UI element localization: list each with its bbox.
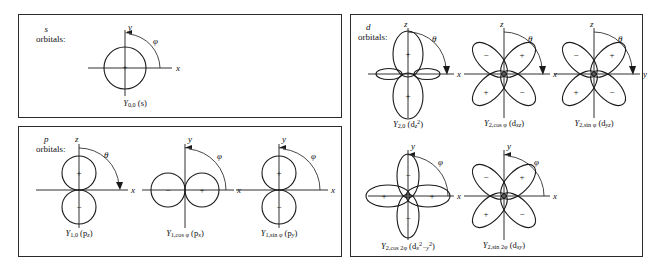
orbital-d-z2: + + x z θ Y2,0 (dz2)	[366, 18, 470, 118]
orbital-d-x2-y2: + + − − x y φ Y2,cos 2φ (dx2−y2)	[366, 140, 470, 240]
phi-angle-label: φ	[153, 36, 158, 46]
lobe-lower-right	[495, 65, 542, 112]
orbital-s-0-0: + x y φ Y0,0 (s)	[80, 20, 190, 96]
orbital-label-d-x2-y2: Y2,cos 2φ (dx2−y2)	[381, 240, 435, 251]
orbital-label-d-xz: Y2,cos φ (dxz)	[484, 118, 524, 128]
s-section-letter: s	[36, 24, 66, 34]
sign-upper-left: −	[483, 172, 488, 182]
lobe-lower-left	[467, 187, 514, 234]
sign-left: +	[381, 191, 386, 201]
x-axis-label: x	[456, 191, 461, 201]
orbital-label-p-z: Y1,0 (pz)	[66, 228, 93, 238]
theta-arc	[79, 148, 119, 186]
lobe-upper-left	[495, 37, 542, 84]
orbital-d-xz: − + + − x z θ Y2,cos φ (dxz)	[462, 18, 566, 118]
sign-upper-left: −	[483, 50, 488, 60]
sign-lower-left: +	[483, 209, 488, 219]
theta-angle-label: θ	[432, 34, 437, 44]
y-axis-label: y	[506, 141, 511, 151]
sign-lower-right: −	[609, 87, 614, 97]
lobe-lower-right	[585, 65, 632, 112]
z-axis-label: z	[403, 19, 408, 29]
z-axis-label: z	[74, 134, 79, 144]
sign-bottom: −	[276, 202, 281, 212]
phi-angle-label: φ	[534, 157, 539, 167]
orbital-label-d-z2: Y2,0 (dz2)	[393, 118, 423, 129]
lobe-lower-left	[557, 65, 604, 112]
sign-lower-right: −	[519, 87, 524, 97]
orbital-p-y: + − x y φ Y1,sin φ (py)	[232, 132, 344, 228]
sign-plus: +	[122, 62, 127, 72]
lobe-lower-left	[467, 65, 514, 112]
y-axis-label: y	[410, 141, 415, 151]
orbital-label-s-0-0: Y0,0 (s)	[123, 98, 147, 108]
sign-top: +	[276, 168, 281, 178]
theta-arc	[408, 32, 446, 70]
sign-top: −	[405, 170, 410, 180]
orbital-d-yz: − + + − y z θ Y2,sin φ (dyz)	[552, 18, 656, 118]
x-axis-label: x	[330, 185, 335, 195]
orbital-label-d-yz: Y2,sin φ (dyz)	[575, 118, 614, 128]
phi-angle-label: φ	[217, 151, 222, 161]
orbital-p-z: + − x z θ Y1,0 (pz)	[32, 132, 144, 228]
theta-angle-label: θ	[528, 34, 533, 44]
lobe-lower-right	[495, 187, 542, 234]
y-axis-label: y	[281, 134, 286, 144]
sign-bottom: −	[76, 202, 81, 212]
orbital-label-d-xy: Y2,sin 2φ (dxy)	[483, 240, 525, 250]
phi-angle-label: φ	[438, 157, 443, 167]
theta-angle-label: θ	[618, 34, 623, 44]
theta-angle-label: θ	[104, 150, 109, 160]
sign-upper-left: −	[573, 50, 578, 60]
y-axis-label: y	[187, 134, 192, 144]
z-axis-label: z	[499, 19, 504, 29]
orbital-figure: s orbitals: + x y φ Y0,0 (s) p orbitals:	[0, 0, 661, 270]
x-axis-label: x	[175, 63, 180, 73]
theta-arrowhead	[116, 182, 123, 190]
s-section-heading: s orbitals:	[36, 24, 66, 44]
y-axis-label: y	[642, 69, 647, 79]
sign-bottom: −	[405, 213, 410, 223]
z-axis-label: z	[589, 19, 594, 29]
x-axis-label: x	[130, 185, 135, 195]
sign-bottom: +	[405, 91, 410, 101]
sign-left: −	[165, 185, 170, 195]
lobe-upper-right	[467, 159, 514, 206]
sign-lower-right: −	[519, 209, 524, 219]
lobe-upper-right	[557, 37, 604, 84]
lobe-upper-right	[467, 37, 514, 84]
orbital-label-p-x: Y1,cos φ (px)	[166, 228, 204, 238]
sign-upper-right: +	[519, 172, 524, 182]
orbital-d-xy: − + + − x y φ Y2,sin 2φ (dxy)	[462, 140, 566, 240]
sign-upper-right: +	[609, 50, 614, 60]
phi-angle-label: φ	[311, 151, 316, 161]
sign-lower-left: +	[483, 87, 488, 97]
x-axis-label: x	[456, 69, 461, 79]
orbital-label-p-y: Y1,sin φ (py)	[261, 228, 298, 238]
sign-top: +	[405, 49, 410, 59]
s-section-word: orbitals:	[36, 34, 66, 44]
sign-right: +	[429, 191, 434, 201]
lobe-upper-left	[585, 37, 632, 84]
sign-upper-right: +	[519, 50, 524, 60]
sign-right: +	[199, 185, 204, 195]
x-axis-label: x	[552, 191, 557, 201]
sign-lower-left: +	[573, 87, 578, 97]
sign-top: +	[76, 168, 81, 178]
